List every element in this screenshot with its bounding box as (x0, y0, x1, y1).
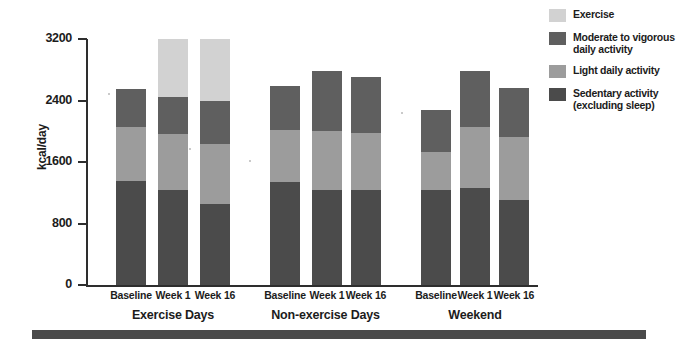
y-axis-tick-mark (78, 161, 87, 163)
y-axis-tick-label: 1600 (22, 154, 72, 168)
plot-area (88, 39, 538, 285)
bar-segment (351, 133, 381, 191)
bar-segment (460, 127, 490, 189)
legend-item: Moderate to vigorous daily activity (549, 31, 680, 55)
bar-segment (312, 71, 342, 131)
legend-color-swatch (549, 88, 566, 101)
bar-segment (460, 188, 490, 285)
bar-stack (351, 77, 381, 285)
bar-segment (351, 190, 381, 285)
legend-item-label: Exercise (573, 8, 614, 20)
x-axis-line (86, 285, 538, 287)
bar-segment (200, 144, 230, 204)
bar-segment (158, 97, 188, 134)
bar-segment (421, 110, 451, 152)
bar-stack (499, 88, 529, 285)
bar-segment (270, 130, 300, 182)
x-axis-group-label: Weekend (390, 308, 560, 322)
bar-stack (116, 89, 146, 285)
bar-segment (270, 182, 300, 285)
bar-segment (158, 190, 188, 285)
x-axis-tick-label: Week 16 (336, 289, 396, 301)
bar-segment (200, 204, 230, 285)
y-axis-tick-label: 2400 (22, 93, 72, 107)
y-axis-tick-mark (78, 100, 87, 102)
legend-color-swatch (549, 65, 566, 78)
bar-segment (270, 86, 300, 130)
bar-chart-figure: kcal/day 3200240016008000 BaselineWeek 1… (0, 0, 680, 344)
x-axis-tick-label: Week 16 (185, 289, 245, 301)
legend-item: Light daily activity (549, 64, 680, 78)
bar-stack (460, 71, 490, 285)
bar-segment (351, 77, 381, 132)
bottom-rule (32, 330, 646, 339)
x-axis-tick-label: Week 16 (484, 289, 544, 301)
bar-segment (499, 88, 529, 137)
legend-item-label: Sedentary activity (excluding sleep) (573, 87, 658, 111)
x-axis-group-label: Exercise Days (88, 308, 258, 322)
bar-segment (116, 89, 146, 127)
y-axis-tick-label: 3200 (22, 31, 72, 45)
bar-segment (421, 152, 451, 190)
y-axis-tick-label: 0 (22, 277, 72, 291)
bar-segment (421, 190, 451, 285)
bar-stack (158, 39, 188, 285)
scan-speck (108, 93, 110, 95)
bar-segment (158, 39, 188, 97)
bar-segment (312, 131, 342, 191)
bar-segment (200, 39, 230, 101)
y-axis-tick-mark (78, 223, 87, 225)
bar-segment (460, 71, 490, 127)
bar-stack (270, 86, 300, 285)
y-axis-tick-mark (78, 38, 87, 40)
legend-item: Sedentary activity (excluding sleep) (549, 87, 680, 111)
bar-segment (499, 137, 529, 200)
scan-speck (189, 148, 191, 150)
y-axis-tick-label: 800 (22, 216, 72, 230)
bar-segment (499, 200, 529, 285)
x-axis-group-label: Non-exercise Days (241, 308, 411, 322)
bar-segment (158, 134, 188, 191)
legend-color-swatch (549, 9, 566, 22)
scan-speck (249, 160, 251, 162)
bar-stack (421, 110, 451, 285)
legend-item-label: Moderate to vigorous daily activity (573, 31, 675, 55)
legend-item-label: Light daily activity (573, 64, 660, 76)
legend-item: Exercise (549, 8, 680, 22)
bar-segment (312, 190, 342, 285)
bar-segment (116, 127, 146, 181)
chart-legend: ExerciseModerate to vigorous daily activ… (549, 8, 680, 120)
scan-speck (401, 112, 403, 114)
bar-stack (312, 71, 342, 285)
bar-segment (116, 181, 146, 285)
bar-segment (200, 101, 230, 144)
y-axis-tick-mark (78, 284, 87, 286)
bar-stack (200, 39, 230, 285)
legend-color-swatch (549, 32, 566, 45)
